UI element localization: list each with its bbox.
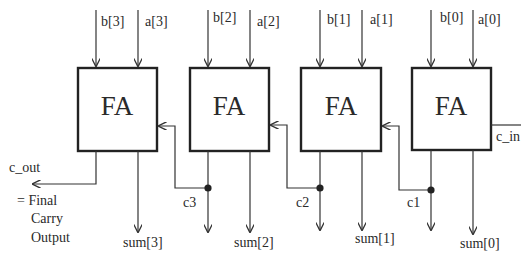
sum3-label: sum[3]: [123, 235, 163, 250]
fa1-label: FA: [325, 91, 358, 121]
c-out-note-line2: Carry: [31, 211, 63, 226]
c-out-note-line3: Output: [31, 230, 70, 245]
fa2-label: FA: [213, 91, 246, 121]
full-adder-3: b[3] a[3] FA c_out = Final Carry Output …: [9, 10, 168, 250]
fa0-label: FA: [435, 91, 468, 121]
a1-label: a[1]: [370, 12, 393, 27]
c2-label: c2: [296, 195, 309, 210]
full-adder-0: b[0] a[0] FA c_in c1 sum[0]: [383, 10, 521, 251]
fa3-label: FA: [101, 91, 134, 121]
c3-label: c3: [183, 195, 196, 210]
b2-label: b[2]: [213, 10, 236, 25]
sum0-label: sum[0]: [460, 236, 500, 251]
c-out-arrow: [33, 151, 96, 184]
b1-label: b[1]: [327, 12, 350, 27]
full-adder-1: b[1] a[1] FA c2 sum[1]: [271, 10, 395, 246]
sum2-label: sum[2]: [234, 235, 274, 250]
ripple-carry-adder-diagram: b[3] a[3] FA c_out = Final Carry Output …: [0, 0, 530, 263]
c2-junction-dot: [316, 184, 323, 191]
b3-label: b[3]: [101, 14, 124, 29]
c-out-note-line1: = Final: [17, 193, 57, 208]
c1-label: c1: [407, 195, 420, 210]
c-in-label: c_in: [496, 129, 520, 144]
a0-label: a[0]: [478, 12, 501, 27]
a3-label: a[3]: [145, 14, 168, 29]
full-adder-2: b[2] a[2] FA c3 sum[2]: [159, 10, 280, 250]
c1-junction-dot: [427, 186, 434, 193]
b0-label: b[0]: [440, 10, 463, 25]
c-out-label: c_out: [9, 160, 40, 175]
c3-junction-dot: [204, 184, 211, 191]
sum1-label: sum[1]: [355, 231, 395, 246]
a2-label: a[2]: [257, 14, 280, 29]
